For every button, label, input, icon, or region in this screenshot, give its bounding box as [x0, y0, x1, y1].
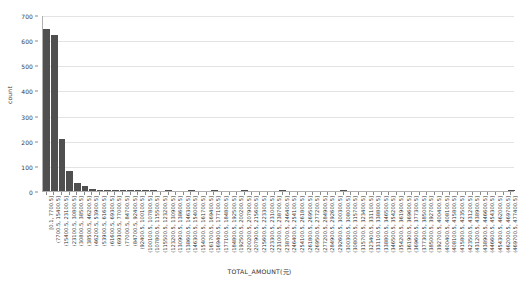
- x-tick-label: (269500.5, 277200.5]: [314, 196, 320, 253]
- bar: [120, 190, 127, 191]
- x-tick-mark: [426, 192, 427, 195]
- x-tick-mark: [297, 192, 298, 195]
- y-tick-mark: [35, 16, 38, 17]
- x-axis-ticklabels: [0.1, 7700.5](7700.5, 15400.5](15400.5, …: [42, 196, 514, 264]
- x-tick-label: (115500.5, 123200.5]: [162, 196, 168, 253]
- x-tick-mark: [175, 192, 176, 195]
- x-tick-mark: [350, 192, 351, 195]
- bar: [43, 29, 50, 191]
- x-tick-label: (308000.5, 315700.5]: [352, 196, 358, 253]
- x-tick-mark: [84, 192, 85, 195]
- x-tick-mark: [320, 192, 321, 195]
- x-tick-mark: [465, 192, 466, 195]
- x-tick-label: (61600.5, 69300.5]: [109, 196, 115, 246]
- x-tick-label: (369600.5, 377300.5]: [413, 196, 419, 253]
- x-tick-label: (392700.5, 400400.5]: [436, 196, 442, 253]
- x-tick-label: (23100.5, 30800.5]: [71, 196, 77, 246]
- x-tick-label: (146300.5, 154000.5]: [192, 196, 198, 253]
- x-tick-mark: [229, 192, 230, 195]
- y-tick-label: 400: [21, 88, 33, 95]
- bar: [127, 190, 134, 191]
- x-tick-mark: [396, 192, 397, 195]
- x-tick-label: (385000.5, 392700.5]: [428, 196, 434, 253]
- x-tick-mark: [366, 192, 367, 195]
- x-tick-label: (246400.5, 254100.5]: [291, 196, 297, 253]
- x-tick-mark: [449, 192, 450, 195]
- x-tick-label: (377300.5, 385000.5]: [421, 196, 427, 253]
- x-tick-label: (130900.5, 138600.5]: [177, 196, 183, 253]
- x-tick-label: (46200.5, 53900.5]: [93, 196, 99, 246]
- x-tick-mark: [69, 192, 70, 195]
- x-tick-label: (38500.5, 46200.5]: [86, 196, 92, 246]
- bar: [211, 190, 218, 191]
- bar: [97, 190, 104, 191]
- x-tick-label: (84700.5, 92400.5]: [132, 196, 138, 246]
- y-tick-mark: [35, 141, 38, 142]
- x-tick-label: (138600.5, 146300.5]: [185, 196, 191, 253]
- x-tick-mark: [152, 192, 153, 195]
- x-tick-mark: [388, 192, 389, 195]
- x-tick-mark: [206, 192, 207, 195]
- y-tick-label: 0: [29, 189, 33, 196]
- x-tick-label: (331100.5, 338800.5]: [375, 196, 381, 253]
- x-tick-mark: [327, 192, 328, 195]
- x-tick-mark: [160, 192, 161, 195]
- x-tick-mark: [114, 192, 115, 195]
- x-tick-label: (192500.5, 200200.5]: [238, 196, 244, 253]
- bar: [89, 189, 96, 191]
- x-tick-label: (454300.5, 462000.5]: [497, 196, 503, 253]
- x-tick-mark: [434, 192, 435, 195]
- x-tick-label: (284900.5, 292600.5]: [329, 196, 335, 253]
- x-tick-label: (438900.5, 446600.5]: [482, 196, 488, 253]
- x-tick-mark: [457, 192, 458, 195]
- x-tick-label: (69300.5, 77000.5]: [116, 196, 122, 246]
- x-tick-mark: [312, 192, 313, 195]
- x-tick-label: (177100.5, 184800.5]: [223, 196, 229, 253]
- bar: [74, 183, 81, 191]
- x-tick-mark: [46, 192, 47, 195]
- bar: [66, 171, 73, 191]
- x-tick-label: (354200.5, 361900.5]: [398, 196, 404, 253]
- x-tick-mark: [221, 192, 222, 195]
- x-tick-mark: [183, 192, 184, 195]
- x-tick-label: (231000.5, 238700.5]: [276, 196, 282, 253]
- x-tick-label: (346500.5, 354200.5]: [390, 196, 396, 253]
- x-tick-mark: [198, 192, 199, 195]
- y-axis-ticklabels: 0100200300400500600700: [0, 16, 38, 192]
- x-tick-mark: [190, 192, 191, 195]
- x-tick-mark: [259, 192, 260, 195]
- x-tick-mark: [91, 192, 92, 195]
- x-tick-mark: [343, 192, 344, 195]
- x-tick-mark: [213, 192, 214, 195]
- bar: [104, 190, 111, 191]
- x-tick-label: (446600.5, 454300.5]: [489, 196, 495, 253]
- bar: [82, 186, 89, 191]
- x-tick-label: (292600.5, 300300.5]: [337, 196, 343, 253]
- x-tick-label: (169400.5, 177100.5]: [215, 196, 221, 253]
- x-tick-label: (223300.5, 231000.5]: [269, 196, 275, 253]
- bar: [135, 190, 142, 191]
- x-tick-label: (469700.5, 477400.5]: [512, 196, 518, 253]
- y-tick-mark: [35, 91, 38, 92]
- bar: [142, 190, 149, 191]
- x-tick-label: (261800.5, 269500.5]: [307, 196, 313, 253]
- bar: [59, 139, 66, 191]
- bar: [508, 190, 515, 191]
- x-tick-mark: [274, 192, 275, 195]
- x-tick-mark: [442, 192, 443, 195]
- x-tick-mark: [99, 192, 100, 195]
- x-tick-mark: [289, 192, 290, 195]
- bar: [340, 190, 347, 191]
- x-tick-mark: [137, 192, 138, 195]
- x-tick-mark: [168, 192, 169, 195]
- bar: [150, 190, 157, 191]
- x-tick-mark: [381, 192, 382, 195]
- x-tick-label: (400400.5, 408100.5]: [444, 196, 450, 253]
- x-tick-label: (423500.5, 431200.5]: [467, 196, 473, 253]
- y-tick-mark: [35, 166, 38, 167]
- x-tick-label: (200200.5, 207900.5]: [246, 196, 252, 253]
- x-tick-mark: [419, 192, 420, 195]
- x-tick-label: (207900.5, 215600.5]: [253, 196, 259, 253]
- y-tick-label: 300: [21, 113, 33, 120]
- x-tick-mark: [503, 192, 504, 195]
